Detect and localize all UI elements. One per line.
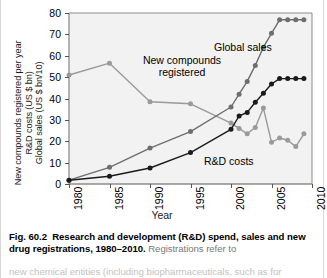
new-compounds-label: New compounds registered	[132, 55, 232, 78]
data-point	[237, 92, 242, 97]
y-tick-label-80: 80	[35, 8, 61, 18]
y-tick-mark	[65, 163, 69, 164]
x-axis-label: Year	[0, 209, 324, 221]
y-tick-mark	[65, 56, 69, 57]
data-point	[148, 146, 153, 151]
x-tick-label-1995: 1995	[195, 187, 205, 210]
x-tick-mark	[69, 184, 70, 188]
data-point	[107, 165, 112, 170]
x-tick-mark	[312, 184, 313, 188]
data-point	[269, 82, 274, 87]
rd-costs-label: R&D costs	[204, 156, 254, 168]
x-tick-mark	[231, 184, 232, 188]
data-point	[67, 178, 72, 183]
x-tick-label-2005: 2005	[276, 187, 286, 210]
data-point	[269, 31, 274, 36]
data-point	[229, 105, 234, 110]
data-point	[301, 76, 306, 81]
data-point	[188, 101, 193, 106]
data-point	[261, 106, 266, 111]
data-point	[237, 114, 242, 119]
y-tick-label-30: 30	[35, 115, 61, 125]
data-point	[237, 126, 242, 131]
data-point	[107, 61, 112, 66]
y-tick-mark	[65, 99, 69, 100]
plot-background	[69, 13, 312, 184]
y-tick-label-0: 0	[35, 179, 61, 189]
data-point	[229, 121, 234, 126]
chart: New compounds registered per year R&D co…	[0, 0, 324, 222]
data-point	[188, 129, 193, 134]
y-tick-label-50: 50	[35, 72, 61, 82]
data-point	[261, 91, 266, 96]
data-point	[301, 17, 306, 22]
data-point	[188, 150, 193, 155]
y-tick-mark	[65, 120, 69, 121]
y-tick-label-10: 10	[35, 158, 61, 168]
global-sales-label: Global sales	[214, 42, 272, 54]
x-tick-mark	[150, 184, 151, 188]
data-point	[245, 79, 250, 84]
new-compounds-label-line-2: registered	[132, 67, 232, 79]
y-tick-mark	[65, 141, 69, 142]
y-tick-label-70: 70	[35, 29, 61, 39]
data-point	[285, 138, 290, 143]
y-tick-label-20: 20	[35, 136, 61, 146]
data-point	[253, 125, 258, 130]
x-tick-label-1980: 1980	[73, 187, 83, 210]
caption-rest: Registrations refer to	[146, 243, 237, 254]
data-point	[245, 131, 250, 136]
data-point	[293, 17, 298, 22]
data-point	[277, 76, 282, 81]
data-point	[245, 110, 250, 115]
data-point	[269, 140, 274, 145]
x-tick-label-2010: 2010	[316, 187, 326, 210]
data-point	[253, 100, 258, 105]
x-tick-mark	[272, 184, 273, 188]
data-point	[229, 127, 234, 132]
data-point	[148, 99, 153, 104]
data-point	[277, 136, 282, 141]
y-tick-mark	[65, 34, 69, 35]
data-point	[301, 131, 306, 136]
y-tick-label-60: 60	[35, 51, 61, 61]
y-tick-mark	[65, 13, 69, 14]
x-tick-label-1985: 1985	[114, 187, 124, 210]
x-tick-label-1990: 1990	[154, 187, 164, 210]
data-point	[277, 17, 282, 22]
x-tick-mark	[191, 184, 192, 188]
x-tick-label-2000: 2000	[235, 187, 245, 210]
y-tick-mark	[65, 77, 69, 78]
x-tick-mark	[110, 184, 111, 188]
data-point	[107, 174, 112, 179]
figure-number: Fig. 60.2	[9, 231, 47, 242]
data-point	[293, 76, 298, 81]
data-point	[285, 76, 290, 81]
data-point	[253, 63, 258, 68]
caption-line-3: new chemical entities (including biophar…	[9, 266, 317, 277]
y-tick-label-40: 40	[35, 94, 61, 104]
data-point	[293, 144, 298, 149]
data-point	[285, 17, 290, 22]
data-point	[148, 166, 153, 171]
figure-caption: Fig. 60.2 Research and development (R&D)…	[9, 231, 317, 254]
new-compounds-label-line-1: New compounds	[132, 55, 232, 67]
